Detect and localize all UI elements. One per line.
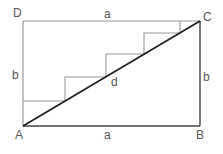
side-label-right: b [203,70,210,84]
side-label-top: a [104,7,111,21]
rectangle-diagonal-diagram: D C A B a a b b d [0,0,223,154]
side-label-bottom: a [104,128,111,142]
diagonal-label: d [111,75,118,89]
staircase [23,21,180,101]
vertex-label-a: A [15,128,23,142]
vertex-label-c: C [203,10,212,24]
vertex-label-b: B [196,128,204,142]
vertex-label-d: D [13,6,22,20]
diagonal-ac [23,21,200,126]
side-label-left: b [12,68,19,82]
